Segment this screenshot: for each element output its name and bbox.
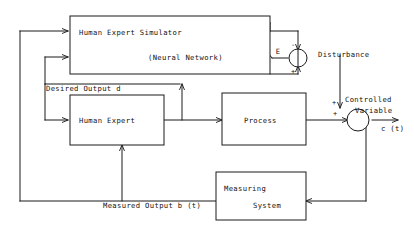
label-controlled-variable-line1: Controlled xyxy=(345,95,392,104)
block-human-expert[interactable]: Human Expert xyxy=(70,95,164,145)
block-simulator-label-line1: Human Expert Simulator xyxy=(79,28,182,37)
error-junction-sign-bottom: + xyxy=(291,68,295,76)
output-junction-sign-top: + xyxy=(332,99,336,107)
block-process-label: Process xyxy=(244,116,277,125)
label-desired-output: Desired Output d xyxy=(46,84,121,93)
block-measuring-rect xyxy=(216,172,306,220)
block-diagram-canvas: Human Expert Simulator (Neural Network) … xyxy=(0,0,414,236)
block-measuring-label-line1: Measuring xyxy=(224,184,266,193)
block-simulator-rect xyxy=(70,16,270,74)
error-signal-label: E xyxy=(276,47,280,56)
block-human-expert-simulator[interactable]: Human Expert Simulator (Neural Network) xyxy=(70,16,270,74)
block-diagram-svg: Human Expert Simulator (Neural Network) … xyxy=(0,0,414,236)
label-disturbance: Disturbance xyxy=(318,50,369,59)
output-junction-sign-left: + xyxy=(333,110,337,118)
block-process[interactable]: Process xyxy=(222,93,306,145)
block-measuring-system[interactable]: Measuring System xyxy=(216,172,306,220)
block-simulator-label-line2: (Neural Network) xyxy=(148,53,223,62)
label-controlled-output: c (t) xyxy=(381,124,404,133)
block-human-expert-label: Human Expert xyxy=(79,116,135,125)
label-controlled-variable-line2: Variable xyxy=(355,106,392,115)
error-junction-sign-top: - xyxy=(291,41,295,49)
label-measured-output: Measured Output b (t) xyxy=(103,201,201,210)
block-measuring-label-line2: System xyxy=(253,201,281,210)
